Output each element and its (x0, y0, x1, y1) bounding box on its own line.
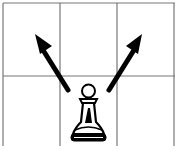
arrow-up-left-icon (35, 34, 68, 90)
white-pawn-icon (71, 85, 106, 142)
arrow-up-right-icon (109, 34, 142, 90)
chess-board-diagram (0, 0, 178, 146)
